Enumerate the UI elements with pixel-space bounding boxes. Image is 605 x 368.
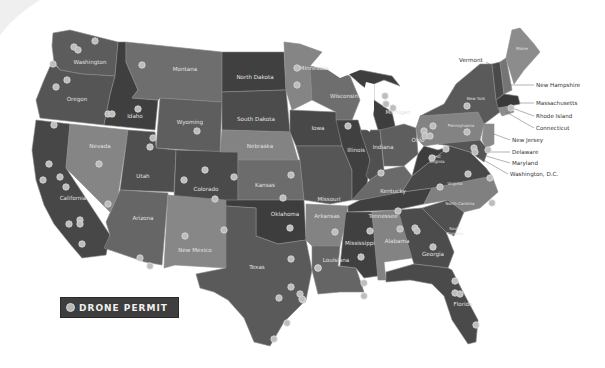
marker-icon[interactable] (485, 147, 491, 153)
marker-icon[interactable] (395, 208, 401, 214)
marker-icon[interactable] (57, 174, 63, 180)
state-maine[interactable] (506, 28, 540, 84)
marker-icon[interactable] (276, 295, 282, 301)
marker-icon[interactable] (361, 280, 367, 286)
marker-icon[interactable] (452, 278, 458, 284)
label-indiana: Indiana (373, 144, 394, 150)
state-new-mexico[interactable] (164, 195, 226, 268)
state-wyoming[interactable] (156, 98, 222, 152)
marker-icon[interactable] (105, 201, 111, 207)
marker-icon[interactable] (464, 103, 470, 109)
label-maine: Maine (516, 46, 529, 51)
marker-icon[interactable] (96, 161, 102, 167)
marker-icon[interactable] (40, 177, 46, 183)
state-arkansas[interactable] (306, 204, 348, 246)
marker-icon[interactable] (429, 155, 435, 161)
marker-icon[interactable] (77, 221, 83, 227)
marker-icon[interactable] (92, 38, 98, 44)
marker-icon[interactable] (50, 61, 56, 67)
marker-icon[interactable] (457, 291, 463, 297)
label-georgia: Georgia (422, 251, 444, 258)
marker-icon[interactable] (430, 123, 436, 129)
legend-label: DRONE PERMIT (79, 303, 168, 313)
marker-icon[interactable] (464, 129, 470, 135)
state-south-dakota[interactable] (222, 90, 290, 132)
label-wisconsin: Wisconsin (330, 93, 358, 99)
marker-icon[interactable] (75, 47, 81, 53)
state-north-dakota[interactable] (222, 52, 286, 92)
marker-icon[interactable] (53, 84, 59, 90)
marker-icon[interactable] (139, 62, 145, 68)
marker-icon[interactable] (66, 221, 72, 227)
marker-icon[interactable] (472, 149, 478, 155)
marker-icon[interactable] (182, 233, 188, 239)
label-colorado: Colorado (193, 186, 219, 192)
marker-icon[interactable] (487, 175, 493, 181)
marker-icon[interactable] (294, 65, 300, 71)
marker-icon[interactable] (288, 284, 294, 290)
marker-icon[interactable] (284, 320, 290, 326)
label-louisiana: Louisiana (323, 257, 349, 263)
label-nevada: Nevada (89, 143, 110, 149)
marker-icon[interactable] (287, 225, 293, 231)
marker-icon[interactable] (221, 227, 227, 233)
marker-icon[interactable] (288, 172, 294, 178)
state-washington[interactable] (52, 30, 118, 76)
marker-icon[interactable] (383, 101, 389, 107)
marker-icon[interactable] (147, 263, 153, 269)
marker-icon[interactable] (137, 255, 143, 261)
marker-icon[interactable] (147, 144, 153, 150)
marker-icon[interactable] (135, 106, 141, 112)
marker-icon[interactable] (79, 241, 85, 247)
marker-icon[interactable] (51, 122, 57, 128)
marker-icon[interactable] (288, 256, 294, 262)
marker-icon[interactable] (280, 195, 286, 201)
marker-icon[interactable] (332, 229, 338, 235)
marker-icon[interactable] (181, 177, 187, 183)
marker-icon[interactable] (358, 254, 364, 260)
marker-icon[interactable] (271, 336, 277, 342)
marker-icon[interactable] (63, 184, 69, 190)
marker-icon[interactable] (414, 228, 420, 234)
marker-icon[interactable] (345, 123, 351, 129)
marker-icon[interactable] (294, 82, 300, 88)
marker-icon[interactable] (378, 170, 384, 176)
marker-icon[interactable] (64, 77, 70, 83)
label-mississippi: Mississippi (345, 240, 375, 247)
marker-icon[interactable] (231, 174, 237, 180)
state-kansas[interactable] (238, 160, 304, 200)
marker-dot-icon (66, 303, 75, 312)
marker-icon[interactable] (150, 135, 156, 141)
marker-icon[interactable] (194, 128, 200, 134)
legend-drone-permit: DRONE PERMIT (60, 297, 179, 318)
marker-icon[interactable] (427, 133, 433, 139)
label-illinois: Illinois (347, 147, 365, 153)
marker-icon[interactable] (489, 200, 495, 206)
marker-icon[interactable] (202, 167, 208, 173)
marker-icon[interactable] (473, 322, 479, 328)
marker-icon[interactable] (465, 171, 471, 177)
marker-icon[interactable] (430, 244, 436, 250)
marker-icon[interactable] (390, 105, 396, 111)
label-texas: Texas (248, 264, 265, 270)
marker-icon[interactable] (46, 161, 52, 167)
marker-icon[interactable] (367, 228, 373, 234)
marker-icon[interactable] (397, 226, 403, 232)
label-maryland: Maryland (512, 160, 538, 167)
lake-michigan (362, 82, 374, 132)
label-idaho: Idaho (127, 113, 143, 119)
marker-icon[interactable] (299, 296, 305, 302)
marker-icon[interactable] (361, 293, 367, 299)
marker-icon[interactable] (443, 146, 449, 152)
state-colorado[interactable] (174, 150, 238, 202)
label-connecticut: Connecticut (536, 125, 570, 131)
marker-icon[interactable] (437, 184, 443, 190)
marker-icon[interactable] (212, 196, 218, 202)
label-new-mexico: New Mexico (178, 247, 212, 253)
marker-icon[interactable] (109, 111, 115, 117)
marker-icon[interactable] (382, 93, 388, 99)
state-montana[interactable] (126, 42, 222, 102)
label-rhode-island: Rhode Island (536, 113, 573, 119)
marker-icon[interactable] (315, 265, 321, 271)
marker-icon[interactable] (508, 105, 514, 111)
